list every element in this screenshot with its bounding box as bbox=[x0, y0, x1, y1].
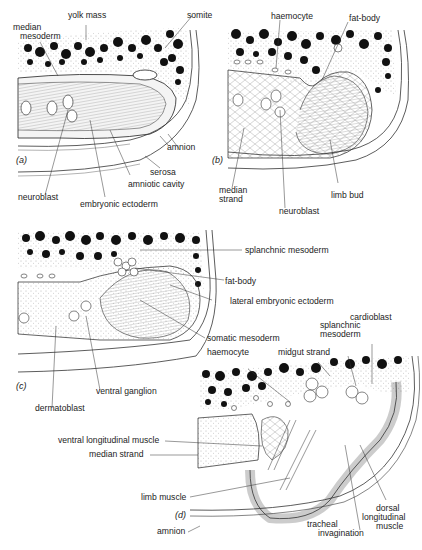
label-tracheal-invagination-2: invagination bbox=[318, 529, 364, 539]
label-median-mesoderm-2: mesoderm bbox=[20, 32, 61, 42]
label-amnion-d: amnion bbox=[157, 527, 185, 537]
label-limb-bud: limb bud bbox=[331, 191, 363, 201]
embryo-section-figure: (a) (b) (c) (d) yolk mass somite median … bbox=[0, 0, 422, 550]
panel-c-tag: (c) bbox=[16, 381, 27, 391]
label-yolk-mass: yolk mass bbox=[68, 11, 106, 21]
label-somatic-mesoderm: somatic mesoderm bbox=[207, 334, 280, 344]
label-haemocyte-d: haemocyte bbox=[207, 348, 249, 358]
label-ventral-ganglion: ventral ganglion bbox=[96, 387, 157, 397]
label-midgut-strand: midgut strand bbox=[278, 348, 330, 358]
label-fat-body-c: fat-body bbox=[225, 277, 256, 287]
label-embryonic-ectoderm: embryonic ectoderm bbox=[80, 200, 158, 210]
panel-d-tag: (d) bbox=[175, 510, 186, 520]
label-neuroblast-b: neuroblast bbox=[279, 207, 319, 217]
label-median-strand-b-2: strand bbox=[219, 195, 243, 205]
panel-b bbox=[228, 20, 409, 208]
panel-a-tag: (a) bbox=[16, 155, 27, 165]
label-amnion-a: amnion bbox=[167, 143, 195, 153]
label-somite: somite bbox=[187, 11, 212, 21]
label-splanchnic-mesoderm-d-2: mesoderm bbox=[320, 330, 361, 340]
figure-drawing bbox=[0, 0, 422, 550]
label-neuroblast-a: neuroblast bbox=[18, 193, 58, 203]
label-amniotic-cavity: amniotic cavity bbox=[128, 180, 184, 190]
label-median-strand-d: median strand bbox=[89, 450, 143, 460]
label-dermatoblast: dermatoblast bbox=[35, 404, 85, 414]
label-haemocyte-b: haemocyte bbox=[271, 12, 313, 22]
label-dorsal-longitudinal-muscle-3: muscle bbox=[376, 522, 403, 532]
label-serosa: serosa bbox=[150, 168, 176, 178]
label-splanchnic-mesoderm-c: splanchnic mesoderm bbox=[245, 246, 329, 256]
label-ventral-longitudinal-muscle: ventral longitudinal muscle bbox=[58, 436, 159, 446]
label-fat-body-b: fat-body bbox=[349, 14, 380, 24]
panel-b-tag: (b) bbox=[212, 155, 223, 165]
label-limb-muscle: limb muscle bbox=[141, 493, 186, 503]
label-lateral-embryonic-ectoderm: lateral embryonic ectoderm bbox=[230, 297, 334, 307]
